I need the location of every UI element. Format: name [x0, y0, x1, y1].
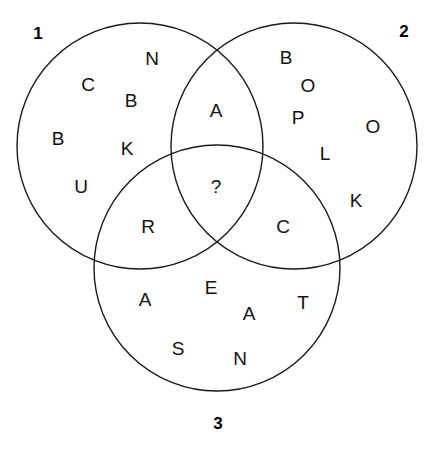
- letter-region-1-only-5: U: [74, 177, 88, 196]
- letter-region-2-only-0: B: [280, 48, 293, 67]
- letter-region-1-only-2: B: [125, 91, 138, 110]
- letter-region-3-only-4: S: [172, 339, 185, 358]
- letter-region-1-2-0: A: [210, 101, 223, 120]
- letter-region-1-only-1: C: [81, 75, 95, 94]
- letter-region-2-3-0: C: [276, 217, 290, 236]
- letter-region-3-only-1: E: [205, 278, 218, 297]
- letter-region-1-only-4: K: [121, 139, 134, 158]
- set-label-1: 1: [33, 25, 42, 42]
- letter-region-3-only-0: A: [139, 290, 152, 309]
- letter-region-2-only-4: L: [320, 144, 331, 163]
- unknown-letter-placeholder: ?: [211, 177, 222, 196]
- venn-circles-group: [0, 0, 437, 457]
- set-label-3: 3: [213, 415, 222, 432]
- letter-region-3-only-5: N: [233, 349, 247, 368]
- letter-region-2-only-3: O: [366, 117, 381, 136]
- letter-region-2-only-1: O: [301, 76, 316, 95]
- letter-region-3-only-3: T: [297, 293, 309, 312]
- letter-region-3-only-2: A: [243, 304, 256, 323]
- letter-region-1-only-3: B: [52, 129, 65, 148]
- set-label-2: 2: [399, 23, 408, 40]
- letter-region-2-only-5: K: [350, 191, 363, 210]
- letter-region-1-only-0: N: [145, 49, 159, 68]
- venn-diagram-canvas: 123 NCBBKUBOPOLKAEATSNARC?: [0, 0, 437, 457]
- letter-region-1-3-0: R: [141, 217, 155, 236]
- letter-region-2-only-2: P: [292, 108, 305, 127]
